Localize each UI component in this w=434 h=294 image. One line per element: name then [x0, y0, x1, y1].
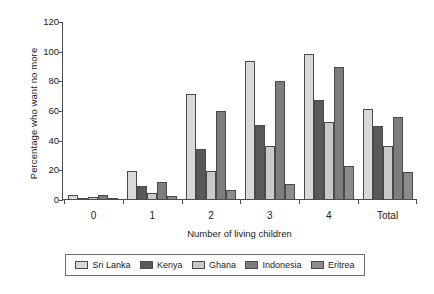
bar — [206, 171, 216, 199]
legend-swatch-icon — [192, 261, 205, 269]
bar — [127, 171, 137, 199]
bar — [68, 195, 78, 199]
bar — [403, 172, 413, 199]
x-tick-mark — [182, 199, 183, 204]
bar — [147, 193, 157, 199]
bar-chart: Percentage who want no more 020406080100… — [0, 0, 434, 294]
legend-label: Eritrea — [328, 260, 355, 270]
y-tick-label: 40 — [33, 136, 59, 146]
bar — [304, 54, 314, 199]
legend-swatch-icon — [311, 261, 324, 269]
legend-label: Indonesia — [262, 260, 301, 270]
bar — [373, 126, 383, 199]
y-tick-mark — [59, 52, 63, 53]
bar — [255, 125, 265, 199]
y-tick-label: 0 — [33, 195, 59, 205]
y-tick-mark — [59, 170, 63, 171]
bar — [186, 94, 196, 199]
x-tick-mark — [240, 199, 241, 204]
y-tick-label: 80 — [33, 76, 59, 86]
legend-swatch-icon — [245, 261, 258, 269]
bar — [78, 198, 88, 200]
bar-group: 4 — [299, 22, 358, 199]
y-tick-label: 60 — [33, 106, 59, 116]
x-tick-mark — [299, 199, 300, 204]
chart-legend: Sri LankaKenyaGhanaIndonesiaEritrea — [65, 254, 365, 276]
bar — [167, 196, 177, 199]
bar — [196, 149, 206, 199]
legend-label: Sri Lanka — [92, 260, 130, 270]
legend-item[interactable]: Sri Lanka — [75, 260, 130, 270]
legend-swatch-icon — [75, 261, 88, 269]
legend-swatch-icon — [140, 261, 153, 269]
bar — [108, 198, 118, 200]
y-tick-mark — [59, 81, 63, 82]
bar-groups: 01234Total — [64, 22, 417, 199]
x-tick-mark — [64, 199, 65, 204]
legend-label: Kenya — [157, 260, 183, 270]
bar — [216, 111, 226, 199]
x-tick-label: Total — [353, 210, 423, 221]
bar-group: 3 — [240, 22, 299, 199]
y-tick-mark — [59, 22, 63, 23]
x-tick-mark — [123, 199, 124, 204]
bar — [157, 182, 167, 199]
bar — [245, 61, 255, 199]
x-tick-mark — [416, 199, 417, 204]
legend-item[interactable]: Ghana — [192, 260, 236, 270]
bar-group: 1 — [123, 22, 182, 199]
bar — [363, 109, 373, 199]
bar — [324, 122, 334, 199]
y-tick-label: 100 — [33, 47, 59, 57]
bar — [88, 197, 98, 199]
bar — [383, 146, 393, 199]
plot-area: 020406080100120 01234Total — [62, 22, 417, 200]
bar — [285, 184, 295, 199]
x-tick-mark — [358, 199, 359, 204]
bar — [226, 190, 236, 199]
legend-label: Ghana — [209, 260, 236, 270]
bar — [137, 186, 147, 199]
bar — [275, 81, 285, 199]
y-tick-label: 20 — [33, 165, 59, 175]
legend-item[interactable]: Kenya — [140, 260, 183, 270]
bar — [393, 117, 403, 199]
bar-group: 2 — [182, 22, 241, 199]
bar — [344, 166, 354, 199]
bar — [265, 146, 275, 199]
y-tick-label: 120 — [33, 17, 59, 27]
bar — [334, 67, 344, 199]
legend-item[interactable]: Indonesia — [245, 260, 301, 270]
legend-item[interactable]: Eritrea — [311, 260, 355, 270]
bar-group: 0 — [64, 22, 123, 199]
bar-group: Total — [358, 22, 417, 199]
x-axis-title: Number of living children — [62, 228, 417, 239]
y-tick-mark — [59, 111, 63, 112]
y-tick-mark — [59, 200, 63, 201]
bar — [98, 195, 108, 199]
y-tick-mark — [59, 141, 63, 142]
bar — [314, 100, 324, 199]
